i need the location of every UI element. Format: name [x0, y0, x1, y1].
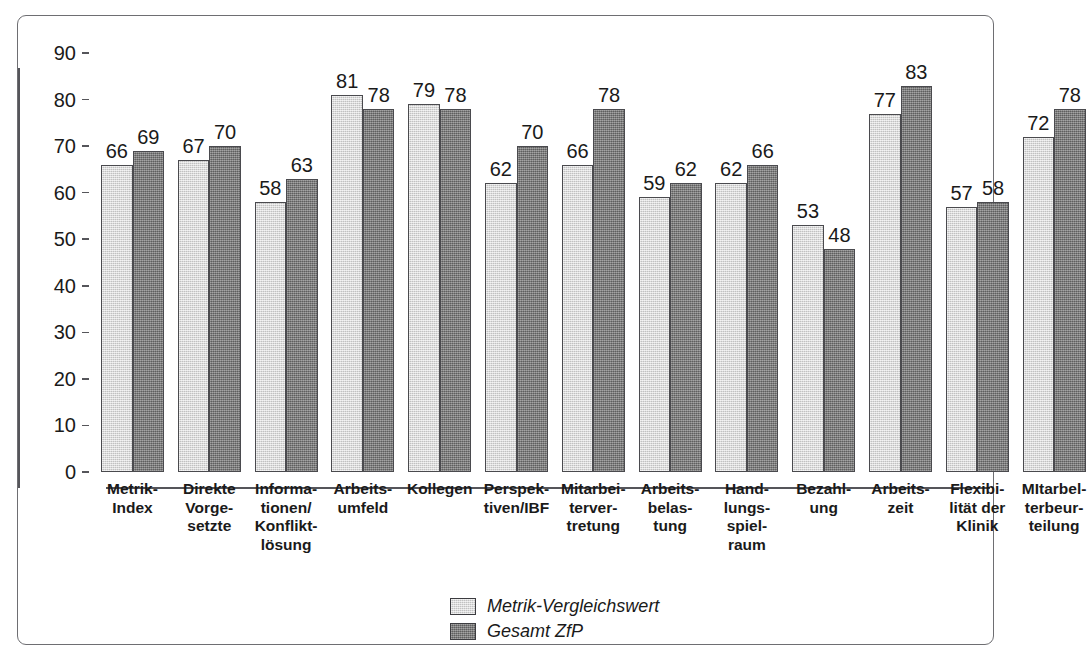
bar	[977, 202, 1009, 472]
legend-swatch	[450, 598, 476, 615]
legend-item: Metrik-Vergleichswert	[450, 594, 659, 619]
bar	[485, 183, 517, 472]
bar-value-label: 78	[433, 85, 479, 105]
y-axis-tick-label: 0	[32, 462, 76, 482]
y-axis-tick	[82, 471, 89, 473]
bar-value-label: 66	[740, 141, 786, 161]
bar	[562, 165, 594, 472]
y-axis-tick-label: 90	[32, 43, 76, 63]
y-axis-tick	[82, 332, 89, 334]
y-axis-tick-label: 80	[32, 90, 76, 110]
y-axis-tick	[82, 52, 89, 54]
bar-value-label: 48	[817, 225, 863, 245]
bar-value-label: 78	[356, 85, 402, 105]
bar	[747, 165, 779, 472]
bar	[133, 151, 165, 472]
legend-label: Gesamt ZfP	[487, 621, 583, 642]
bar-value-label: 63	[279, 155, 325, 175]
bar	[178, 160, 210, 472]
bar	[331, 95, 363, 472]
plot-area: 6669677058638178797862706678596262665348…	[89, 53, 977, 472]
bar	[255, 202, 287, 472]
y-axis-tick	[82, 378, 89, 380]
bar	[209, 146, 241, 472]
bar	[593, 109, 625, 472]
figure-frame: 0102030405060708090 66696770586381787978…	[17, 15, 994, 645]
bar	[440, 109, 472, 472]
bar-value-label: 69	[126, 127, 172, 147]
bar	[286, 179, 318, 472]
y-axis-tick	[82, 145, 89, 147]
bar	[1023, 137, 1055, 472]
bar-value-label: 78	[586, 85, 632, 105]
y-axis-tick-label: 30	[32, 322, 76, 342]
legend-item: Gesamt ZfP	[450, 619, 659, 644]
y-axis-tick	[82, 192, 89, 194]
bar	[101, 165, 133, 472]
bar	[670, 183, 702, 472]
y-axis-tick	[82, 425, 89, 427]
y-axis-tick-label: 50	[32, 229, 76, 249]
y-axis-line	[18, 68, 20, 488]
category-label: MItarbel- terbeur- teilung	[1006, 480, 1091, 536]
bar-value-label: 70	[202, 122, 248, 142]
y-axis-tick-label: 20	[32, 369, 76, 389]
bar	[639, 197, 671, 472]
bar	[363, 109, 395, 472]
bar-value-label: 83	[894, 62, 940, 82]
y-axis-tick	[82, 99, 89, 101]
legend-label: Metrik-Vergleichswert	[487, 596, 659, 617]
bar-value-label: 53	[785, 201, 831, 221]
y-axis-tick-label: 10	[32, 415, 76, 435]
bar-value-label: 62	[663, 159, 709, 179]
y-axis-tick	[82, 238, 89, 240]
bar	[715, 183, 747, 472]
bar-value-label: 70	[510, 122, 556, 142]
bar	[517, 146, 549, 472]
bar	[408, 104, 440, 472]
bar	[792, 225, 824, 472]
bar	[869, 114, 901, 472]
bar-value-label: 78	[1047, 85, 1091, 105]
bar	[901, 86, 933, 472]
legend-swatch	[450, 623, 476, 640]
y-axis-tick-label: 40	[32, 276, 76, 296]
y-axis-tick	[82, 285, 89, 287]
y-axis-tick-label: 70	[32, 136, 76, 156]
bar-value-label: 58	[970, 178, 1016, 198]
bar	[824, 249, 856, 472]
chart-legend: Metrik-VergleichswertGesamt ZfP	[450, 594, 659, 644]
y-axis-tick-label: 60	[32, 183, 76, 203]
bar	[1054, 109, 1086, 472]
bar	[946, 207, 978, 472]
